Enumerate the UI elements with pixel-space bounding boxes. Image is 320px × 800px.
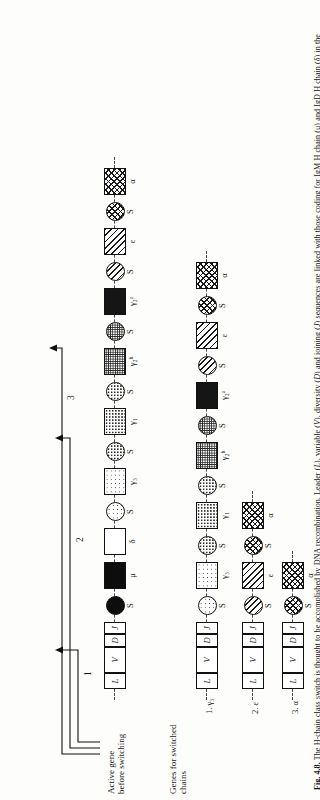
switch-signal-label: S [126, 269, 135, 274]
constant-region-label: ε [128, 240, 137, 244]
switch-signal-label: S [218, 603, 227, 608]
constant-region-unit: ε [104, 228, 136, 255]
constant-region-label: μ [128, 573, 137, 578]
switch-signal-shape [198, 596, 217, 615]
arrow-number-3: 3 [66, 395, 76, 400]
segment-connector [206, 495, 207, 502]
dna-strand-end [292, 551, 293, 562]
dna-strand-end [292, 689, 293, 700]
gene-segment-unit: D [104, 634, 126, 647]
constant-region-label: ε [266, 574, 275, 578]
constant-region-unit: ε [196, 322, 228, 349]
gene-segment-d: D [104, 634, 126, 647]
constant-region-unit: μ [104, 562, 136, 589]
gene-segment-v: V [104, 647, 126, 673]
row-tag-alpha: 3. α [290, 701, 300, 714]
constant-region-shape [196, 442, 218, 469]
switch-signal-unit: S [104, 382, 135, 401]
constant-region-label: γ₃ [128, 478, 137, 485]
switched-row-alpha: LVDJSα [282, 551, 312, 700]
gene-segment-unit: L [196, 673, 218, 689]
segment-connector [206, 435, 207, 442]
constant-region-shape [196, 322, 218, 349]
figure-page: 1 2 3 Active gene before switching Genes… [0, 0, 312, 800]
segment-connector [114, 255, 115, 262]
gene-segment-unit: J [196, 622, 218, 634]
switch-signal-label: S [218, 543, 227, 548]
gene-segment-unit: V [104, 647, 126, 673]
gene-segment-l: L [242, 673, 264, 689]
gene-segment-unit: L [104, 673, 126, 689]
constant-region-label: α [266, 513, 275, 517]
switch-signal-label: S [218, 363, 227, 368]
switch-signal-shape [106, 202, 125, 221]
constant-region-shape [104, 168, 126, 195]
dna-strand-end [252, 689, 253, 700]
segment-connector [252, 529, 253, 536]
segment-connector [206, 409, 207, 416]
segment-connector [114, 375, 115, 382]
constant-region-label: γ₁ [128, 418, 137, 425]
gene-segment-unit: L [282, 673, 304, 689]
segment-connector [114, 221, 115, 228]
gene-segment-v: V [196, 647, 218, 673]
gene-segment-j: J [242, 622, 264, 634]
gene-segment-unit: J [104, 622, 126, 634]
switch-signal-unit: S [104, 502, 135, 521]
switch-signal-shape [198, 356, 217, 375]
switch-signal-shape [106, 262, 125, 281]
gene-segment-unit: V [282, 647, 304, 673]
constant-region-shape [242, 502, 264, 529]
constant-region-unit: δ [104, 528, 136, 555]
constant-region-unit: α [104, 168, 136, 195]
segment-connector [206, 555, 207, 562]
segment-connector [114, 461, 115, 468]
gene-segment-unit: D [196, 634, 218, 647]
constant-region-shape [104, 562, 126, 589]
constant-region-label: γ₃ [220, 572, 229, 579]
constant-region-unit: ε [242, 562, 274, 589]
constant-region-shape [104, 528, 126, 555]
switch-signal-shape [106, 502, 125, 521]
switched-row-epsilon: LVDJSεSα [242, 491, 274, 700]
constant-region-label: δ [128, 540, 137, 544]
dna-strand-end [114, 157, 115, 168]
constant-region-unit: γ₂ᵃ [104, 288, 136, 315]
constant-region-shape [282, 562, 304, 589]
gene-segment-unit: D [242, 634, 264, 647]
switch-signal-unit: S [196, 296, 227, 315]
constant-region-shape [196, 502, 218, 529]
segment-connector [206, 469, 207, 476]
germline-gene-map: LVDJSμδSγ₃Sγ₁Sγ₂ᵇSγ₂ᵃSεSα [104, 157, 136, 700]
switch-signal-unit: S [196, 476, 227, 495]
gene-segment-unit: J [282, 622, 304, 634]
constant-region-shape [104, 288, 126, 315]
segment-connector [206, 349, 207, 356]
constant-region-shape [196, 262, 218, 289]
gene-segment-d: D [196, 634, 218, 647]
switch-signal-label: S [264, 543, 273, 548]
switch-signal-label: S [126, 449, 135, 454]
switch-signal-label: S [218, 483, 227, 488]
segment-connector [292, 615, 293, 622]
constant-region-unit: α [196, 262, 228, 289]
gene-segment-j: J [104, 622, 126, 634]
switch-signal-unit: S [196, 596, 227, 615]
segment-connector [114, 555, 115, 562]
constant-region-shape [104, 468, 126, 495]
segment-connector [114, 315, 115, 322]
switch-signal-label: S [126, 603, 135, 608]
segment-connector [114, 401, 115, 408]
segment-connector [206, 289, 207, 296]
switch-signal-shape [106, 322, 125, 341]
switch-signal-unit: S [104, 202, 135, 221]
switch-signal-unit: S [104, 442, 135, 461]
gene-segment-l: L [282, 673, 304, 689]
switch-signal-shape [198, 476, 217, 495]
constant-region-label: ε [220, 334, 229, 338]
constant-region-unit: α [282, 562, 312, 589]
constant-region-unit: γ₁ [104, 408, 136, 435]
switch-signal-unit: S [104, 322, 135, 341]
switch-signal-shape [198, 296, 217, 315]
constant-region-shape [104, 408, 126, 435]
